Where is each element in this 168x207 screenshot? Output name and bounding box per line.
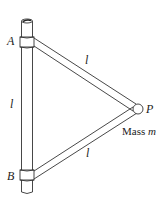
rod-upper — [34, 38, 136, 111]
collar-a — [20, 37, 34, 48]
label-length-upper: l — [85, 53, 89, 67]
label-length-lower: l — [86, 146, 90, 160]
label-b: B — [7, 169, 15, 183]
label-a: A — [6, 34, 15, 48]
label-mass-prefix: Mass — [122, 125, 148, 137]
label-mass: Mass m — [122, 125, 156, 137]
label-p: P — [145, 102, 154, 116]
label-length-vertical: l — [10, 97, 14, 111]
collar-b — [20, 170, 34, 181]
label-mass-symbol: m — [148, 125, 156, 137]
rod-lower — [34, 107, 137, 179]
mass-p-circle — [133, 104, 143, 114]
diagram-canvas: A B P l l l Mass m — [0, 0, 168, 207]
